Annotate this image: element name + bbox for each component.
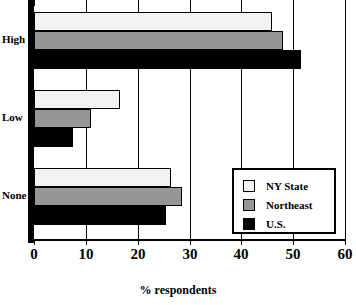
tick-mark-bottom (86, 239, 87, 245)
bar (34, 31, 283, 50)
gridline (345, 4, 346, 239)
tick-mark-top (345, 0, 346, 6)
x-tick-label: 40 (221, 246, 261, 263)
bar (34, 187, 182, 206)
category-label: Low (0, 111, 30, 123)
x-tick-label: 50 (273, 246, 313, 263)
x-tick-label: 60 (325, 246, 356, 263)
tick-mark-bottom (138, 239, 139, 245)
x-tick-label: 0 (14, 246, 54, 263)
legend-label-northeast: Northeast (266, 199, 312, 211)
tick-mark-top (293, 0, 294, 6)
bar (34, 206, 166, 225)
legend-item-ny-state: NY State (234, 176, 334, 195)
bar (34, 90, 120, 109)
tick-mark-bottom (293, 239, 294, 245)
tick-mark-top (190, 0, 191, 6)
tick-mark-bottom (190, 239, 191, 245)
legend-swatch-ny-state (243, 180, 255, 192)
category-label: None (0, 189, 30, 201)
x-tick-label: 30 (170, 246, 210, 263)
tick-mark-bottom (241, 239, 242, 245)
legend-item-northeast: Northeast (234, 195, 334, 214)
tick-mark-bottom (34, 239, 35, 245)
bar (34, 128, 73, 147)
legend: NY State Northeast U.S. (232, 168, 336, 234)
bar (34, 50, 301, 69)
tick-mark-top (34, 0, 35, 6)
bar (34, 168, 171, 187)
tick-mark-top (241, 0, 242, 6)
bar (34, 12, 272, 31)
legend-swatch-northeast (243, 199, 255, 211)
legend-swatch-us (243, 218, 255, 230)
x-tick-label: 20 (118, 246, 158, 263)
legend-item-us: U.S. (234, 214, 334, 233)
x-tick-label: 10 (66, 246, 106, 263)
x-axis-title: % respondents (0, 283, 356, 298)
tick-mark-bottom (345, 239, 346, 245)
category-label: High (0, 33, 30, 45)
legend-label-us: U.S. (266, 218, 286, 230)
legend-label-ny-state: NY State (266, 180, 308, 192)
bar (34, 109, 91, 128)
tick-mark-top (86, 0, 87, 6)
bar-chart: 0102030405060 HighLowNone NY State North… (0, 0, 356, 305)
tick-mark-top (138, 0, 139, 6)
x-axis-line (28, 239, 345, 241)
